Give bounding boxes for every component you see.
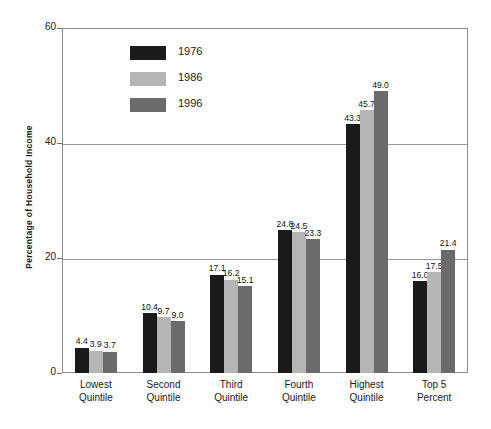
bar-groups: 4.43.93.710.49.79.017.116.215.124.824.52… [62, 28, 468, 373]
y-axis-title: Percentage of Household Income [24, 97, 34, 297]
bar: 43.3 [346, 124, 360, 373]
bar: 24.5 [292, 232, 306, 373]
bar-group: 43.345.749.0 [346, 28, 388, 373]
x-axis-label: Top 5Percent [389, 379, 479, 404]
x-axis-label-line: Percent [389, 392, 479, 405]
legend-swatch [130, 98, 166, 112]
bar-group: 16.017.521.4 [413, 28, 455, 373]
y-tick-label-0: 0 [16, 366, 56, 377]
x-axis-label-line: Top 5 [389, 379, 479, 392]
bar-group: 4.43.93.7 [75, 28, 117, 373]
bar-value-label: 21.4 [431, 238, 465, 248]
y-tick-label-40: 40 [16, 136, 56, 147]
bar: 15.1 [238, 286, 252, 373]
bar: 23.3 [306, 239, 320, 373]
bar: 3.9 [89, 351, 103, 373]
bar-value-label: 3.7 [93, 340, 127, 350]
bar: 4.4 [75, 348, 89, 373]
legend-label: 1996 [178, 97, 202, 109]
bar: 16.0 [413, 281, 427, 373]
bar: 16.2 [224, 280, 238, 373]
bar-value-label: 23.3 [296, 228, 330, 238]
bar-group: 17.116.215.1 [210, 28, 252, 373]
y-tick-mark-0 [57, 373, 62, 374]
bar-value-label: 9.0 [161, 310, 195, 320]
bar-value-label: 49.0 [364, 80, 398, 90]
bar: 9.0 [171, 321, 185, 373]
bar: 9.7 [157, 317, 171, 373]
y-tick-label-60: 60 [16, 21, 56, 32]
bar: 17.5 [427, 272, 441, 373]
bar: 17.1 [210, 275, 224, 373]
bar: 49.0 [374, 91, 388, 373]
legend-swatch [130, 46, 166, 60]
legend-label: 1986 [178, 71, 202, 83]
bar-value-label: 15.1 [228, 275, 262, 285]
y-tick-label-20: 20 [16, 251, 56, 262]
x-axis-labels: LowestQuintileSecondQuintileThirdQuintil… [62, 379, 468, 419]
legend-label: 1976 [178, 45, 202, 57]
bar: 24.8 [278, 230, 292, 373]
bar: 3.7 [103, 352, 117, 373]
bar-chart: Percentage of Household Income 0204060 4… [0, 0, 491, 429]
bar-group: 24.824.523.3 [278, 28, 320, 373]
bar: 10.4 [143, 313, 157, 373]
legend-swatch [130, 72, 166, 86]
bar: 21.4 [441, 250, 455, 373]
bar: 45.7 [360, 110, 374, 373]
